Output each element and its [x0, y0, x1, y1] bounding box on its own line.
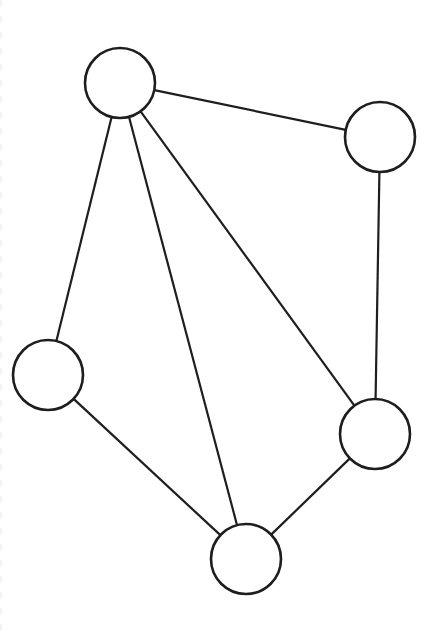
- node-right-bottom: [340, 399, 410, 469]
- edge-C-E: [74, 399, 221, 535]
- edge-A-B: [154, 90, 345, 130]
- node-left: [13, 340, 83, 410]
- edge-B-D: [376, 172, 380, 399]
- nodes-group: [13, 48, 415, 594]
- node-right-top: [345, 102, 415, 172]
- edge-A-C: [56, 117, 111, 341]
- node-bottom: [211, 524, 281, 594]
- node-top: [85, 48, 155, 118]
- edges-group: [56, 90, 379, 535]
- edge-E-D: [271, 458, 350, 534]
- edge-A-D: [141, 111, 355, 405]
- graph-diagram: [0, 0, 446, 631]
